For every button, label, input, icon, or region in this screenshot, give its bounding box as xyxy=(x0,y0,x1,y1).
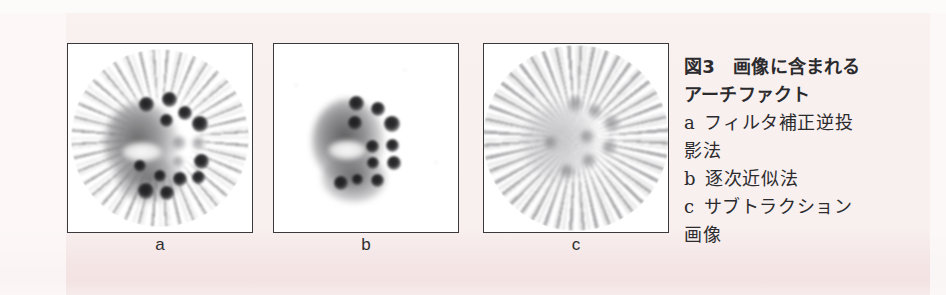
caption-title-line-1: 図3 画像に含まれる xyxy=(684,53,934,81)
figure-panel-c xyxy=(483,43,669,233)
cold-notch-a xyxy=(122,142,162,162)
spect-image-c xyxy=(484,44,668,232)
hot-spot xyxy=(371,102,385,116)
warm-spot xyxy=(588,104,602,119)
hot-spot xyxy=(387,156,401,170)
caption-item-index: b xyxy=(684,168,705,189)
hot-spot xyxy=(162,92,177,107)
caption-item-text: 逐次近似法 xyxy=(705,168,798,189)
warm-spot xyxy=(544,136,557,150)
cold-notch-b xyxy=(328,140,366,160)
figure-panel-a xyxy=(67,43,253,233)
caption-item-a: aフィルタ補正逆投 xyxy=(684,109,934,137)
figure-panel-b xyxy=(273,43,459,233)
hot-spot xyxy=(154,170,166,182)
warm-spot xyxy=(604,116,620,132)
hot-spot xyxy=(160,114,173,127)
hot-spot xyxy=(352,174,363,185)
caption-title-line-2: アーチファクト xyxy=(684,81,934,109)
warm-spot xyxy=(172,136,186,150)
warm-spot xyxy=(192,137,205,150)
warm-spot xyxy=(580,130,594,144)
hot-spot xyxy=(192,171,205,184)
hot-spot xyxy=(160,186,174,200)
figure-caption: 図3 画像に含まれる アーチファクト aフィルタ補正逆投 影法 b逐次近似法 c… xyxy=(684,53,934,249)
hot-spot xyxy=(173,172,187,186)
hot-spot xyxy=(349,96,364,111)
paper-left-margin xyxy=(0,13,66,295)
hot-spot xyxy=(178,106,192,120)
panel-label-b: b xyxy=(273,234,459,256)
caption-item-index: a xyxy=(684,112,704,133)
caption-item-c-cont: 画像 xyxy=(684,221,934,249)
caption-item-text: フィルタ補正逆投 xyxy=(704,112,853,133)
hot-spot xyxy=(194,154,209,169)
warm-spot xyxy=(560,164,574,179)
hot-spot xyxy=(138,183,154,199)
hot-spot xyxy=(384,116,400,132)
spect-image-b xyxy=(274,44,458,232)
warm-spot xyxy=(602,140,617,155)
figure-page: a b c 図3 画像に含まれる アーチファクト aフィルタ補正逆投 影法 b逐… xyxy=(0,0,946,295)
hot-spot xyxy=(139,97,154,112)
caption-item-text: 影法 xyxy=(684,140,721,161)
panel-label-c: c xyxy=(483,234,669,256)
panel-label-a: a xyxy=(67,234,253,256)
caption-item-text: サブトラクション xyxy=(704,196,853,217)
caption-item-b: b逐次近似法 xyxy=(684,165,934,193)
spect-image-a xyxy=(68,44,252,232)
hot-spot xyxy=(134,160,146,172)
hot-spot xyxy=(366,140,379,153)
hot-spot xyxy=(371,174,384,187)
caption-item-index: c xyxy=(684,196,704,217)
caption-item-text: 画像 xyxy=(684,224,721,245)
hot-spot xyxy=(367,157,379,169)
hot-spot xyxy=(334,176,348,190)
warm-spot xyxy=(172,156,184,168)
warm-spot xyxy=(582,154,596,168)
caption-item-a-cont: 影法 xyxy=(684,137,934,165)
warm-spot xyxy=(568,96,583,113)
hot-spot xyxy=(192,116,208,132)
hot-spot xyxy=(348,116,362,130)
caption-item-c: cサブトラクション xyxy=(684,193,934,221)
hot-spot xyxy=(386,139,399,152)
